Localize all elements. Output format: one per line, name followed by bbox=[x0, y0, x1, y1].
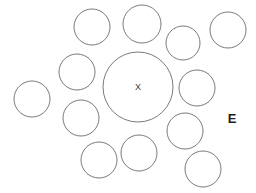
surrounding-circle bbox=[179, 70, 215, 106]
figure-label-e: E bbox=[228, 112, 237, 125]
surrounding-circle bbox=[123, 5, 161, 43]
surrounding-circle bbox=[210, 12, 246, 48]
circle-diagram-figure: X E bbox=[0, 0, 256, 193]
surrounding-circle bbox=[74, 9, 110, 45]
surrounding-circle bbox=[121, 135, 157, 171]
surrounding-circle bbox=[166, 26, 200, 60]
surrounding-circle bbox=[185, 151, 221, 187]
surrounding-circle bbox=[81, 142, 117, 178]
circle-diagram-canvas bbox=[0, 0, 256, 193]
surrounding-circle bbox=[167, 113, 203, 149]
surrounding-circle bbox=[14, 81, 50, 117]
center-circle-label-x: X bbox=[135, 83, 141, 92]
surrounding-circle bbox=[59, 54, 95, 90]
surrounding-circles-group bbox=[14, 5, 246, 187]
surrounding-circle bbox=[63, 100, 99, 136]
